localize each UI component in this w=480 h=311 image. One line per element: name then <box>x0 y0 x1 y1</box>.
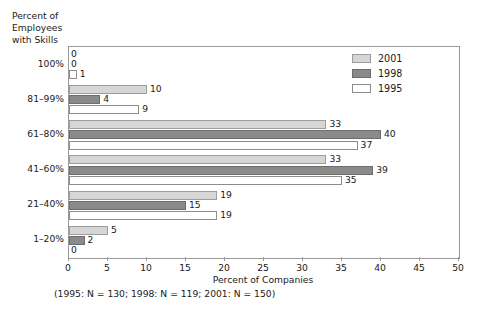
bar-2001-5: 5 <box>69 226 459 235</box>
y-axis-title: Percent of Employees with Skills <box>12 10 82 47</box>
bar-1998-2: 40 <box>69 130 459 139</box>
legend-label-1998: 1998 <box>378 68 402 80</box>
bar-2001-2: 33 <box>69 120 459 129</box>
bar-1995-3: 35 <box>69 176 459 185</box>
bar-value-label: 1 <box>80 68 86 80</box>
figure-caption: (1995: N = 130; 1998: N = 119; 2001: N =… <box>54 288 275 299</box>
legend-item-2001: 2001 <box>352 52 448 65</box>
legend-item-1995: 1995 <box>352 82 448 95</box>
bar-1995-1: 9 <box>69 105 459 114</box>
legend-swatch-1998 <box>352 69 371 78</box>
bar-1995-4: 19 <box>69 211 459 220</box>
bar-value-label: 10 <box>150 83 162 95</box>
bar-value-label: 19 <box>220 189 232 201</box>
x-tick-label-0: 0 <box>65 261 71 274</box>
x-tick-label-1: 5 <box>104 261 110 274</box>
legend-label-1995: 1995 <box>378 83 402 95</box>
bar-group-6180%: 334037 <box>69 117 459 152</box>
chart-legend: 200119981995 <box>352 52 448 97</box>
bar-value-label: 37 <box>361 139 373 151</box>
x-tick-label-6: 30 <box>296 261 308 274</box>
bar-1998-5: 2 <box>69 236 459 245</box>
bar-chart-figure: Percent of Employees with Skills 100%81–… <box>0 0 480 311</box>
y-tick-label-0: 100% <box>2 58 64 70</box>
bar-rect <box>69 211 217 220</box>
y-axis-tick-labels: 100%81–99%61–80%41–60%21–40%1–20% <box>0 46 64 257</box>
bar-value-label: 39 <box>376 164 388 176</box>
bar-rect <box>69 155 326 164</box>
x-axis-tick-labels: 05101520253035404550 <box>68 261 458 275</box>
legend-item-1998: 1998 <box>352 67 448 80</box>
bar-2001-3: 33 <box>69 155 459 164</box>
x-tick-label-10: 50 <box>452 261 464 274</box>
bar-1995-5: 0 <box>69 246 459 255</box>
x-axis-title: Percent of Companies <box>68 274 458 285</box>
x-tick-label-9: 45 <box>413 261 425 274</box>
bar-value-label: 0 <box>71 244 77 256</box>
bar-value-label: 2 <box>88 234 94 246</box>
y-tick-label-5: 1–20% <box>2 233 64 245</box>
bar-value-label: 4 <box>103 93 109 105</box>
bar-value-label: 15 <box>189 199 201 211</box>
legend-label-2001: 2001 <box>378 53 402 65</box>
bar-rect <box>69 176 342 185</box>
bar-rect <box>69 141 358 150</box>
x-tick-label-2: 10 <box>140 261 152 274</box>
bar-group-120%: 520 <box>69 223 459 258</box>
bar-rect <box>69 95 100 104</box>
y-tick-label-3: 41–60% <box>2 163 64 175</box>
bar-rect <box>69 70 77 79</box>
bar-1998-3: 39 <box>69 166 459 175</box>
bar-1998-4: 15 <box>69 201 459 210</box>
x-tick-label-3: 15 <box>179 261 191 274</box>
bar-2001-4: 19 <box>69 191 459 200</box>
bar-value-label: 40 <box>384 128 396 140</box>
bar-rect <box>69 105 139 114</box>
bar-value-label: 19 <box>220 209 232 221</box>
bar-group-2140%: 191519 <box>69 188 459 223</box>
legend-swatch-2001 <box>352 54 371 63</box>
legend-swatch-1995 <box>352 84 371 93</box>
bar-1995-2: 37 <box>69 141 459 150</box>
bar-group-4160%: 333935 <box>69 153 459 188</box>
bar-value-label: 5 <box>111 224 117 236</box>
y-tick-label-2: 61–80% <box>2 128 64 140</box>
bar-value-label: 0 <box>71 58 77 70</box>
y-tick-label-4: 21–40% <box>2 198 64 210</box>
bar-rect <box>69 201 186 210</box>
x-tick-label-8: 40 <box>374 261 386 274</box>
y-tick-label-1: 81–99% <box>2 93 64 105</box>
bar-value-label: 33 <box>329 118 341 130</box>
bar-value-label: 9 <box>142 103 148 115</box>
bar-value-label: 35 <box>345 174 357 186</box>
x-tick-label-5: 25 <box>257 261 269 274</box>
bar-rect <box>69 166 373 175</box>
bar-rect <box>69 120 326 129</box>
bar-rect <box>69 130 381 139</box>
x-tick-label-7: 35 <box>335 261 347 274</box>
x-tick-label-4: 20 <box>218 261 230 274</box>
bar-value-label: 33 <box>329 153 341 165</box>
